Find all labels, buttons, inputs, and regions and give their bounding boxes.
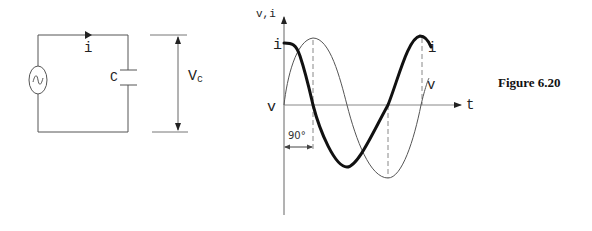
capacitor-label: C bbox=[110, 70, 118, 85]
phase-label: 90° bbox=[288, 130, 306, 141]
current-label: i bbox=[84, 40, 92, 56]
figure-caption: Figure 6.20 bbox=[498, 75, 561, 90]
left-v-label: v bbox=[267, 99, 276, 116]
circuit: i C Vc bbox=[29, 31, 203, 132]
current-direction-arrow-icon bbox=[85, 31, 92, 39]
vc-label-subscript: c bbox=[197, 74, 203, 85]
voltage-curve bbox=[284, 38, 429, 178]
vc-label-main: V bbox=[188, 68, 197, 85]
figure-svg: i C Vc v,i t i v i v 90° Figure 6.20 bbox=[0, 0, 592, 231]
left-i-label: i bbox=[273, 37, 282, 54]
y-axis-label: v,i bbox=[256, 8, 276, 20]
vc-label: Vc bbox=[188, 68, 203, 85]
waveform-graph: v,i t i v i v 90° bbox=[256, 8, 474, 215]
x-axis-label: t bbox=[466, 97, 474, 113]
figure-canvas: i C Vc v,i t i v i v 90° Figure 6.20 bbox=[0, 0, 592, 231]
